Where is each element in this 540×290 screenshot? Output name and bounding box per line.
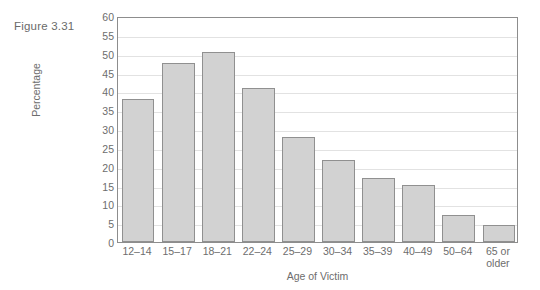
y-tick-label: 0	[108, 238, 114, 249]
x-tick-label: 15–17	[157, 246, 197, 258]
y-tick-label: 20	[102, 162, 114, 173]
bar	[402, 185, 435, 242]
x-axis-tick-labels: 12–1415–1718–2122–2425–2930–3435–3940–49…	[117, 246, 518, 272]
y-tick-label: 5	[108, 219, 114, 230]
x-tick-label: 30–34	[318, 246, 358, 258]
bar	[162, 63, 195, 242]
bar	[483, 225, 516, 242]
y-tick-label: 50	[102, 49, 114, 60]
y-tick-label: 45	[102, 68, 114, 79]
y-axis-title: Percentage	[30, 30, 42, 150]
x-tick-label: 35–39	[358, 246, 398, 258]
bar	[362, 178, 395, 242]
bar	[122, 99, 155, 242]
y-tick-label: 60	[102, 12, 114, 23]
y-axis-tick-labels: 051015202530354045505560	[96, 17, 114, 243]
bar	[442, 215, 475, 242]
bar	[242, 88, 275, 242]
x-tick-label: 22–24	[237, 246, 277, 258]
bar	[282, 137, 315, 242]
x-axis-title: Age of Victim	[117, 270, 518, 282]
bar-series	[118, 18, 517, 242]
x-tick-label: 65 orolder	[478, 246, 518, 269]
x-tick-label: 12–14	[117, 246, 157, 258]
y-tick-label: 35	[102, 106, 114, 117]
y-tick-label: 25	[102, 144, 114, 155]
y-tick-label: 10	[102, 200, 114, 211]
x-tick-label: 40–49	[398, 246, 438, 258]
bar	[322, 160, 355, 242]
y-tick-label: 40	[102, 87, 114, 98]
y-tick-label: 15	[102, 181, 114, 192]
bar	[202, 52, 235, 242]
x-tick-label: 18–21	[197, 246, 237, 258]
y-tick-label: 30	[102, 125, 114, 136]
y-tick-label: 55	[102, 31, 114, 42]
figure-caption: Figure 3.31	[14, 20, 74, 32]
plot-area	[117, 17, 518, 243]
x-tick-label: 50–64	[438, 246, 478, 258]
x-tick-label: 25–29	[277, 246, 317, 258]
